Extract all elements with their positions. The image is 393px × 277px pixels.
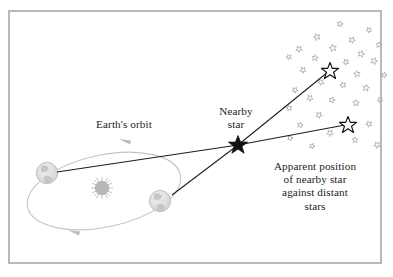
distant-star	[329, 44, 337, 52]
distant-star	[291, 86, 299, 94]
distant-star	[376, 96, 384, 104]
distant-star	[336, 20, 343, 27]
distant-star-field	[285, 20, 387, 149]
distant-star	[285, 53, 293, 61]
distant-star	[357, 50, 365, 58]
label-nearby-star: Nearby star	[195, 105, 277, 131]
apparent-star-lower-marker	[339, 117, 356, 133]
sightline-earth2-to-star	[172, 145, 238, 195]
distant-star	[311, 54, 318, 61]
distant-star	[313, 32, 322, 40]
distant-star	[342, 58, 350, 66]
distant-star	[326, 128, 335, 137]
distant-star	[308, 142, 316, 149]
distant-star	[352, 99, 359, 106]
distant-star	[299, 65, 308, 74]
apparent-star-upper-marker	[321, 63, 338, 79]
distant-star	[365, 120, 373, 128]
orbit-direction-arrow-top	[119, 139, 131, 145]
orbit-direction-arrow-bottom	[68, 230, 80, 235]
distant-star	[295, 45, 304, 53]
distant-star	[339, 81, 347, 88]
distant-star	[381, 71, 388, 78]
distant-star	[370, 56, 379, 65]
earth-globe-right	[149, 190, 171, 212]
parallax-diagram-figure: Earth's orbit Nearby star Apparent posit…	[0, 0, 393, 277]
distant-star	[365, 26, 373, 34]
distant-star	[362, 84, 370, 92]
distant-star	[373, 140, 382, 149]
label-earth-orbit: Earth's orbit	[76, 118, 172, 131]
distant-star	[328, 96, 336, 104]
diagram-canvas	[0, 0, 393, 277]
distant-star	[353, 70, 360, 77]
distant-star	[315, 110, 324, 119]
distant-star	[305, 93, 314, 102]
distant-star	[376, 42, 382, 48]
label-apparent-position: Apparent position of nearby star against…	[256, 160, 374, 213]
distant-star	[297, 121, 304, 128]
sun-icon	[91, 177, 113, 199]
distant-star	[348, 36, 356, 44]
earth-globe-left	[36, 162, 58, 184]
distant-star	[352, 137, 358, 143]
